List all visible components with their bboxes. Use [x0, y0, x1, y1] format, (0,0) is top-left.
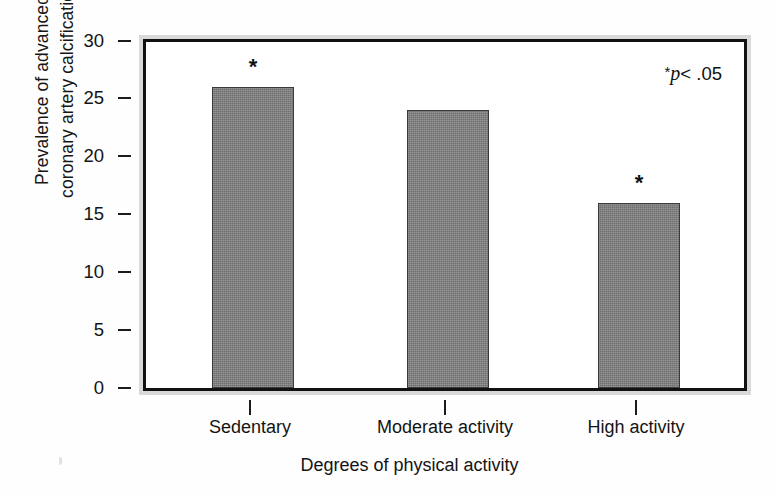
y-tick-mark-20 — [118, 155, 131, 157]
y-tick-label-25: 25 — [58, 89, 104, 108]
y-tick-label-15: 15 — [58, 205, 104, 224]
scan-artifact — [59, 457, 62, 465]
x-tick-label-sedentary: Sedentary — [209, 417, 291, 437]
y-tick-mark-15 — [118, 213, 131, 215]
p-value-rest: < .05 — [680, 63, 722, 84]
x-tick-label-moderate-activity: Moderate activity — [377, 417, 513, 437]
y-tick-label-20: 20 — [58, 147, 104, 166]
x-tick-mark-high-activity — [635, 400, 637, 415]
x-tick-mark-sedentary — [249, 400, 251, 415]
significance-star-high-activity: * — [635, 176, 644, 190]
significance-star-sedentary: * — [249, 60, 258, 74]
y-axis-title-line-1: Prevalence of advanced — [30, 0, 55, 198]
y-tick-label-10: 10 — [58, 263, 104, 282]
bar-chart-figure: Prevalence of advanced coronary artery c… — [0, 0, 775, 497]
p-value-symbol: p — [670, 62, 680, 84]
y-tick-label-30: 30 — [58, 32, 104, 51]
y-tick-mark-25 — [118, 97, 131, 99]
y-tick-label-0: 0 — [58, 379, 104, 398]
y-tick-mark-30 — [118, 40, 131, 42]
y-tick-mark-5 — [118, 329, 131, 331]
y-tick-label-5: 5 — [58, 321, 104, 340]
bar-sedentary — [212, 87, 294, 388]
x-axis-title-text: Degrees of physical activity — [300, 455, 518, 475]
p-value-annotation: *p< .05 — [664, 62, 722, 85]
bar-moderate-activity — [407, 110, 489, 388]
x-tick-mark-moderate-activity — [444, 400, 446, 415]
x-axis-title: Degrees of physical activity — [0, 455, 775, 476]
y-tick-mark-0 — [118, 387, 131, 389]
x-tick-label-high-activity: High activity — [587, 417, 684, 437]
plot-inner-border: * * *p< .05 — [143, 39, 747, 391]
y-tick-mark-10 — [118, 271, 131, 273]
bar-high-activity — [598, 203, 680, 388]
plot-frame: * * *p< .05 — [139, 35, 751, 395]
plot-area: * * *p< .05 — [146, 42, 744, 388]
